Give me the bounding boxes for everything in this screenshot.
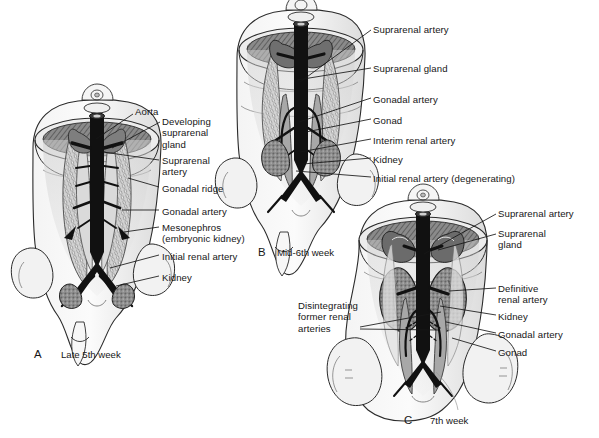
label-a-gonadal-artery: Gonadal artery	[162, 206, 227, 217]
panel-caption-a: Late 5th week	[61, 349, 121, 360]
embryology-figure: ALate 5th weekAortaDeveloping suprarenal…	[0, 0, 599, 438]
label-c-gonadal-artery: Gonadal artery	[498, 329, 563, 340]
label-c-disintegrating-former-renal-arteries: Disintegrating former renal arteries	[298, 300, 358, 334]
label-b-gonadal-artery: Gonadal artery	[373, 94, 438, 105]
label-a-kidney: Kidney	[162, 272, 192, 283]
label-b-kidney: Kidney	[373, 154, 403, 165]
label-a-suprarenal-artery: Suprarenal artery	[162, 155, 210, 178]
label-b-initial-renal-artery-degenerating: Initial renal artery (degenerating)	[373, 173, 515, 184]
label-b-suprarenal-artery: Suprarenal artery	[373, 24, 449, 35]
label-b-gonad: Gonad	[373, 115, 402, 126]
panel-a-illustration	[11, 84, 174, 366]
panel-caption-c: 7th week	[430, 415, 468, 426]
label-c-definitive-renal-artery: Definitive renal artery	[498, 283, 548, 306]
panel-letter-c: C	[404, 414, 412, 426]
label-b-suprarenal-gland: Suprarenal gland	[373, 63, 448, 74]
label-a-developing-suprarenal-gland: Developing suprarenal gland	[162, 116, 211, 150]
panel-caption-b: Mid-6th week	[277, 247, 334, 258]
label-a-mesonephros: Mesonephros (embryonic kidney)	[162, 222, 245, 245]
panel-letter-b: B	[258, 246, 266, 258]
label-c-suprarenal-artery: Suprarenal artery	[498, 208, 574, 219]
panel-letter-a: A	[34, 348, 42, 360]
label-c-gonad: Gonad	[498, 347, 527, 358]
label-b-interim-renal-artery: Interim renal artery	[373, 135, 455, 146]
label-c-kidney: Kidney	[498, 311, 528, 322]
label-c-suprarenal-gland: Suprarenal gland	[498, 228, 546, 251]
label-a-gonadal-ridge: Gonadal ridge	[162, 183, 224, 194]
label-a-initial-renal-artery: Initial renal artery	[162, 251, 238, 262]
label-a-aorta: Aorta	[135, 106, 158, 117]
